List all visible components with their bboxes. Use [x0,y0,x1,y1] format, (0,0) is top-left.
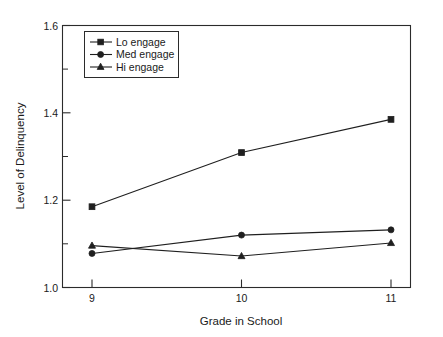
y-axis-tick-labels: 1.6 1.4 1.2 1.0 [43,20,58,294]
data-point-hi-engage-9 [89,242,96,248]
data-point-med-engage-9 [89,250,95,256]
y-tick-label-1-6: 1.6 [43,20,58,32]
square-icon [98,39,104,45]
y-axis-ticks-minor [63,69,69,244]
legend-label-lo-engage: Lo engage [116,36,166,48]
data-point-med-engage-11 [388,227,394,233]
legend-label-med-engage: Med engage [116,48,175,60]
y-tick-label-1-2: 1.2 [43,194,58,206]
x-tick-label-9: 9 [89,292,95,304]
series-lo-engage[interactable] [89,116,394,209]
data-point-lo-engage-9 [89,204,95,210]
data-point-hi-engage-11 [388,239,395,245]
series-line-lo-engage [92,119,391,206]
legend-label-hi-engage: Hi engage [116,61,164,73]
y-tick-label-1-0: 1.0 [43,282,58,294]
chart-canvas: 1.6 1.4 1.2 1.0 9 10 11 Grade in School … [0,0,443,337]
series-hi-engage[interactable] [89,239,395,258]
data-point-lo-engage-10 [239,150,245,156]
y-tick-label-1-4: 1.4 [43,107,58,119]
delinquency-line-chart: 1.6 1.4 1.2 1.0 9 10 11 Grade in School … [0,0,443,337]
x-axis-title: Grade in School [200,315,282,327]
circle-icon [98,52,104,58]
y-axis-title: Level of Delinquency [14,102,26,209]
data-point-lo-engage-11 [388,116,394,122]
x-axis-ticks [92,280,391,288]
series-layer [89,116,395,258]
x-axis-tick-labels: 9 10 11 [89,292,397,304]
data-point-med-engage-10 [239,232,245,238]
x-tick-label-10: 10 [236,292,248,304]
x-tick-label-11: 11 [386,292,397,304]
legend: Lo engage Med engage Hi engage [85,32,179,78]
